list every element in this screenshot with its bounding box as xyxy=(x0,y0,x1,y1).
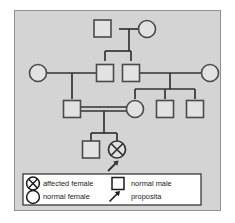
affected-female-symbol xyxy=(27,177,40,190)
individual-II-3-male-square[interactable] xyxy=(123,65,140,82)
legend-label-proposita: proposita xyxy=(131,192,162,201)
individual-III-2-female-circle[interactable] xyxy=(127,101,144,118)
individual-II-2-male-square[interactable] xyxy=(97,65,114,82)
legend-label-affected-female: affected female xyxy=(43,179,93,188)
individual-II-1-female-circle[interactable] xyxy=(30,65,47,82)
legend-label-normal-male: normal male xyxy=(131,179,172,188)
individual-I-1-male-square[interactable] xyxy=(94,20,111,37)
individual-II-4-female-circle[interactable] xyxy=(202,65,219,82)
pedigree-connectors xyxy=(47,29,201,141)
individual-IV-2-affected-female-symbol[interactable] xyxy=(109,141,126,158)
individual-III-4-male-square[interactable] xyxy=(187,101,204,118)
normal-male-symbol xyxy=(112,178,124,190)
pedigree-panel: affected female normal male normal femal… xyxy=(14,10,221,211)
proposita-arrow-icon xyxy=(108,161,119,172)
legend-item-normal-male: normal male xyxy=(112,178,172,190)
individual-IV-1-male-square[interactable] xyxy=(83,141,100,158)
individual-III-1-male-square[interactable] xyxy=(64,101,81,118)
individual-III-3-male-square[interactable] xyxy=(157,101,174,118)
normal-female-symbol xyxy=(27,191,40,204)
pedigree-diagram: affected female normal male normal femal… xyxy=(15,11,220,210)
legend-label-normal-female: normal female xyxy=(43,192,90,201)
individual-I-2-female-circle[interactable] xyxy=(139,21,156,38)
pedigree-figure: affected female normal male normal femal… xyxy=(0,0,235,223)
